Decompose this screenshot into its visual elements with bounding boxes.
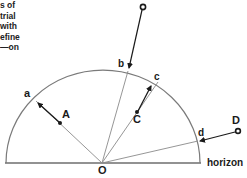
label-d: d [198, 127, 204, 138]
source-top-circle [140, 4, 145, 9]
label-b: b [118, 58, 124, 69]
ray-O-b [102, 71, 128, 163]
label-A: A [62, 108, 70, 120]
label-a: a [24, 87, 31, 99]
label-O: O [98, 164, 107, 176]
sky-hemisphere-arc [6, 70, 200, 163]
point-A-dot [58, 121, 62, 125]
ray-O-c [102, 82, 158, 163]
point-D-circle [236, 129, 241, 134]
celestial-hemisphere-diagram: a A b c C d D O horizon [0, 0, 247, 178]
arrow-C-c [138, 86, 151, 111]
arrow-A-a [38, 103, 59, 122]
label-c: c [154, 71, 160, 82]
label-C: C [133, 113, 141, 125]
label-horizon: horizon [207, 157, 243, 168]
arrow-D-d [200, 132, 235, 141]
ray-O-d [102, 141, 198, 163]
label-D: D [232, 114, 240, 126]
arrow-source-b [129, 10, 142, 68]
